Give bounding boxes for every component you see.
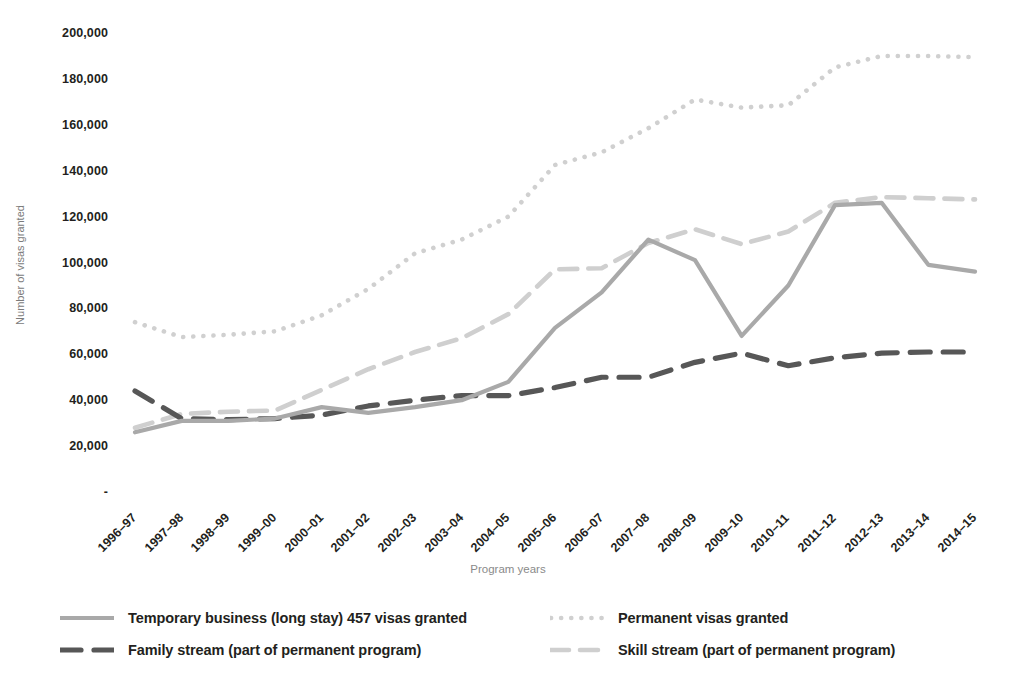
plot-area xyxy=(0,0,1016,683)
legend-item[interactable]: Skill stream (part of permanent program) xyxy=(550,635,895,665)
legend-item[interactable]: Permanent visas granted xyxy=(550,603,788,633)
legend-label: Temporary business (long stay) 457 visas… xyxy=(128,610,467,626)
legend-swatch xyxy=(60,643,114,657)
legend-swatch xyxy=(550,611,604,625)
x-axis-title: Program years xyxy=(0,563,1016,575)
legend-label: Skill stream (part of permanent program) xyxy=(618,642,895,658)
chart-legend: Temporary business (long stay) 457 visas… xyxy=(60,603,990,669)
legend-item[interactable]: Temporary business (long stay) 457 visas… xyxy=(60,603,467,633)
series-line xyxy=(135,56,975,337)
chart-container: Number of visas granted -20,00040,00060,… xyxy=(0,0,1016,683)
legend-label: Family stream (part of permanent program… xyxy=(128,642,421,658)
legend-swatch xyxy=(550,643,604,657)
legend-item[interactable]: Family stream (part of permanent program… xyxy=(60,635,421,665)
legend-label: Permanent visas granted xyxy=(618,610,788,626)
legend-swatch xyxy=(60,611,114,625)
series-line xyxy=(135,197,975,428)
series-line xyxy=(135,203,975,432)
